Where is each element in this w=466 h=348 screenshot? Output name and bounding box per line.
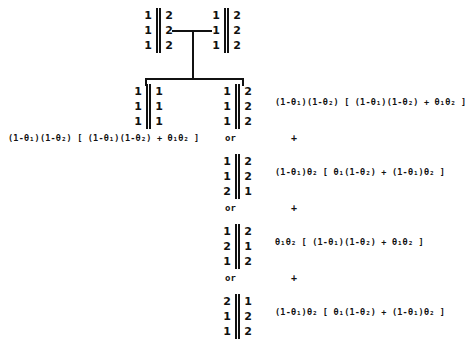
matrix-cell: 1 (222, 84, 232, 99)
matrix-cell: 1 (222, 309, 232, 324)
matrix-cell: 2 (164, 8, 174, 23)
double-bar-separator-icon (235, 224, 240, 269)
matrix-cell: 2 (243, 154, 253, 169)
branch-3-matrix-col-right: 2 1 2 (243, 224, 253, 269)
matrix-cell: 1 (243, 184, 253, 199)
matrix-cell: 2 (232, 23, 242, 38)
matrix-cell: 1 (154, 99, 164, 114)
double-bar-separator-icon (224, 8, 229, 53)
matrix-cell: 1 (154, 114, 164, 129)
split-bar (145, 78, 244, 80)
matrix-cell: 2 (243, 99, 253, 114)
or-separator-1: or (225, 133, 236, 143)
or-separator-3: or (225, 273, 236, 283)
child-left-matrix: 1 1 1 1 1 1 (133, 84, 164, 129)
branch-2-formula: (1-θ₁)θ₂ [ θ₁(1-θ₂) + (1-θ₁)θ₂ ] (275, 167, 445, 177)
matrix-cell: 1 (243, 239, 253, 254)
matrix-cell: 2 (243, 84, 253, 99)
matrix-cell: 1 (211, 8, 221, 23)
matrix-cell: 2 (243, 309, 253, 324)
matrix-cell: 2 (243, 169, 253, 184)
branch-4-matrix-col-left: 2 1 1 (222, 294, 232, 339)
branch-2-matrix-col-left: 1 1 2 (222, 154, 232, 199)
plus-separator-1: + (291, 132, 297, 143)
root-left-matrix-col-left: 1 1 1 (143, 8, 153, 53)
root-connector-stem (192, 30, 194, 79)
matrix-cell: 1 (222, 114, 232, 129)
branch-4-matrix: 2 1 1 1 2 2 (222, 294, 253, 339)
matrix-cell: 2 (222, 239, 232, 254)
branch-2-matrix: 1 1 2 2 2 1 (222, 154, 253, 199)
matrix-cell: 1 (222, 324, 232, 339)
matrix-cell: 2 (222, 294, 232, 309)
matrix-cell: 1 (211, 23, 221, 38)
matrix-cell: 1 (143, 38, 153, 53)
matrix-cell: 2 (243, 114, 253, 129)
branch-1-matrix-col-right: 2 2 2 (243, 84, 253, 129)
matrix-cell: 2 (243, 324, 253, 339)
matrix-cell: 1 (222, 99, 232, 114)
matrix-cell: 2 (164, 38, 174, 53)
left-branch-formula: (1-θ₁)(1-θ₂) [ (1-θ₁)(1-θ₂) + θ₁θ₂ ] (8, 133, 199, 143)
branch-3-matrix: 1 2 1 2 1 2 (222, 224, 253, 269)
root-left-matrix: 1 1 1 2 2 2 (143, 8, 174, 53)
branch-1-matrix-col-left: 1 1 1 (222, 84, 232, 129)
matrix-cell: 1 (133, 114, 143, 129)
child-left-matrix-col-left: 1 1 1 (133, 84, 143, 129)
matrix-cell: 2 (232, 8, 242, 23)
root-right-matrix: 1 1 1 2 2 2 (211, 8, 242, 53)
matrix-cell: 2 (243, 254, 253, 269)
or-separator-2: or (225, 203, 236, 213)
child-left-matrix-col-right: 1 1 1 (154, 84, 164, 129)
matrix-cell: 1 (133, 99, 143, 114)
matrix-cell: 1 (143, 23, 153, 38)
branch-2-matrix-col-right: 2 2 1 (243, 154, 253, 199)
matrix-cell: 1 (222, 254, 232, 269)
double-bar-separator-icon (235, 84, 240, 129)
matrix-cell: 1 (211, 38, 221, 53)
matrix-cell: 2 (243, 224, 253, 239)
branch-3-formula: θ₁θ₂ [ (1-θ₁)(1-θ₂) + θ₁θ₂ ] (275, 237, 424, 247)
branch-1-formula: (1-θ₁)(1-θ₂) [ (1-θ₁)(1-θ₂) + θ₁θ₂ ] (275, 97, 466, 107)
root-right-matrix-col-left: 1 1 1 (211, 8, 221, 53)
matrix-cell: 1 (154, 84, 164, 99)
double-bar-separator-icon (235, 154, 240, 199)
branch-1-matrix: 1 1 1 2 2 2 (222, 84, 253, 129)
matrix-cell: 2 (232, 38, 242, 53)
double-bar-separator-icon (235, 294, 240, 339)
matrix-cell: 1 (222, 224, 232, 239)
branch-4-formula: (1-θ₁)θ₂ [ θ₁(1-θ₂) + (1-θ₁)θ₂ ] (275, 307, 445, 317)
matrix-cell: 1 (243, 294, 253, 309)
root-right-matrix-col-right: 2 2 2 (232, 8, 242, 53)
plus-separator-3: + (291, 272, 297, 283)
matrix-cell: 2 (222, 184, 232, 199)
double-bar-separator-icon (156, 8, 161, 53)
double-bar-separator-icon (146, 84, 151, 129)
matrix-cell: 1 (133, 84, 143, 99)
matrix-cell: 1 (222, 154, 232, 169)
plus-separator-2: + (291, 202, 297, 213)
branch-3-matrix-col-left: 1 2 1 (222, 224, 232, 269)
branch-4-matrix-col-right: 1 2 2 (243, 294, 253, 339)
matrix-cell: 1 (143, 8, 153, 23)
matrix-cell: 1 (222, 169, 232, 184)
